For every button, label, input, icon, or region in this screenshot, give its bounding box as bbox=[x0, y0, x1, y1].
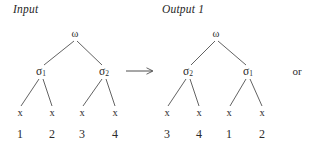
edge-s1-right-input bbox=[43, 79, 52, 106]
input-caption: Input bbox=[13, 3, 38, 15]
edge-root-left-input bbox=[44, 41, 74, 65]
output-leaf-symbol-4: x bbox=[259, 108, 264, 119]
sigma-subscript: 2 bbox=[189, 69, 193, 78]
edge-root-right-output bbox=[218, 41, 246, 65]
output-leaf-index-3: 1 bbox=[226, 128, 232, 140]
output-root-node: ω bbox=[213, 29, 220, 40]
input-leaf-symbol-3: x bbox=[79, 108, 84, 119]
sigma-subscript: 2 bbox=[105, 69, 109, 78]
output-leaf-index-4: 2 bbox=[259, 128, 265, 140]
sigma-subscript: 1 bbox=[249, 69, 253, 78]
input-leaf-symbol-2: x bbox=[49, 108, 54, 119]
input-leaf-symbol-1: x bbox=[17, 108, 22, 119]
output-internal-node-sigma1: σ1 bbox=[243, 66, 253, 78]
edge-root-right-input bbox=[77, 41, 102, 65]
edge-s2-left-output bbox=[168, 79, 186, 106]
edge-s1-left-output bbox=[230, 79, 246, 106]
sigma-subscript: 1 bbox=[42, 69, 46, 78]
or-label: or bbox=[292, 65, 301, 77]
output-leaf-symbol-3: x bbox=[226, 108, 231, 119]
input-internal-node-sigma1: σ1 bbox=[36, 66, 46, 78]
input-leaf-symbol-4: x bbox=[112, 108, 117, 119]
output-leaf-index-2: 4 bbox=[196, 128, 202, 140]
edge-s2-right-output bbox=[190, 79, 199, 106]
edge-s1-right-output bbox=[250, 79, 262, 106]
input-leaf-index-1: 1 bbox=[17, 128, 23, 140]
edge-s1-left-input bbox=[21, 79, 39, 106]
input-leaf-index-2: 2 bbox=[49, 128, 55, 140]
edge-s2-right-input bbox=[106, 79, 115, 106]
edge-root-left-output bbox=[191, 41, 215, 65]
input-leaf-index-3: 3 bbox=[79, 128, 85, 140]
output-leaf-symbol-1: x bbox=[164, 108, 169, 119]
input-internal-node-sigma2: σ2 bbox=[99, 66, 109, 78]
edge-s2-left-input bbox=[83, 79, 102, 106]
output-leaf-index-1: 3 bbox=[164, 128, 170, 140]
tree-edges bbox=[0, 0, 313, 149]
input-leaf-index-4: 4 bbox=[112, 128, 118, 140]
input-root-node: ω bbox=[72, 29, 79, 40]
output-caption: Output 1 bbox=[162, 3, 204, 15]
output-leaf-symbol-2: x bbox=[196, 108, 201, 119]
output-internal-node-sigma2: σ2 bbox=[183, 66, 193, 78]
figure-canvas: Input Output 1 ω σ1 σ2 x x x x 1 2 3 4 ω… bbox=[0, 0, 313, 149]
